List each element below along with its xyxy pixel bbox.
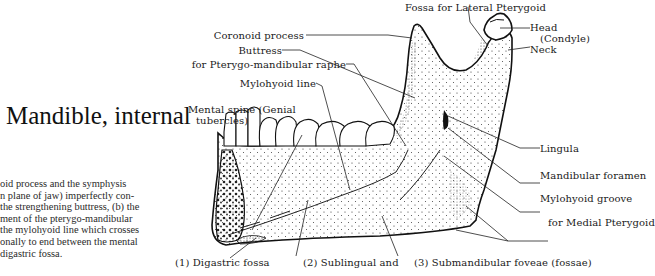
label-mandibular-foramen: Mandibular foramen [540, 170, 646, 181]
label-condyle: (Condyle) [540, 33, 590, 44]
label-head: Head [530, 22, 557, 33]
label-coronoid-process: Coronoid process [214, 30, 304, 41]
label-neck: Neck [530, 44, 557, 55]
label-medial-pterygoid: for Medial Pterygoid [548, 217, 655, 228]
label-mylohyoid-line: Mylohyoid line [240, 78, 316, 89]
label-lingula: Lingula [540, 143, 579, 154]
label-genial-tubercles: tubercles) [196, 115, 248, 126]
label-submandibular: (3) Submandibular foveae (fossae) [414, 257, 592, 268]
label-fossa-lateral-pterygoid: Fossa for Lateral Pterygoid [405, 2, 546, 13]
label-sublingual: (2) Sublingual and [303, 257, 399, 268]
label-digastric-fossa: (1) Digastric fossa [175, 257, 270, 268]
label-pterygo-mandibular-raphe: for Pterygo-mandibular raphe [192, 59, 346, 70]
label-buttress: Buttress [238, 45, 282, 56]
label-mental-spine: Mental spine (Genial [188, 104, 296, 115]
label-mylohyoid-groove: Mylohyoid groove [540, 193, 632, 204]
